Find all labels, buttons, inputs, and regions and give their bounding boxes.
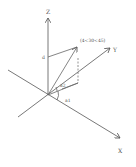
z-axis-label: Z — [46, 8, 50, 15]
angle-label-a2: a2 — [60, 83, 66, 88]
point-label: (4<30<45) — [80, 38, 106, 43]
angle-label-a1: a1 — [65, 98, 71, 103]
y-axis-label: Y — [112, 46, 118, 53]
x-axis — [8, 70, 120, 138]
height-connector-line — [48, 47, 77, 57]
coordinate-diagram: Z Y X d (4<30<45) a2 a1 — [0, 0, 136, 167]
angle-arc-a1 — [57, 91, 59, 100]
x-axis-label: X — [118, 147, 123, 154]
distance-label: d — [42, 55, 45, 60]
